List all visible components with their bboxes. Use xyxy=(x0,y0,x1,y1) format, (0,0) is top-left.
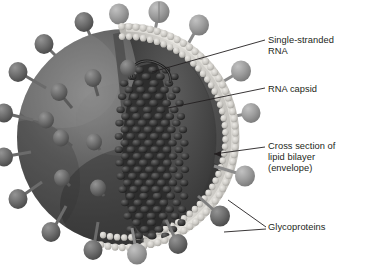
capsid-subunit xyxy=(149,100,158,107)
phospholipid-head xyxy=(211,88,217,95)
capsid-subunit xyxy=(157,179,166,186)
capsid-subunit xyxy=(180,193,188,200)
capsid-subunit xyxy=(150,133,159,140)
phospholipid-head xyxy=(231,151,238,158)
capsid-subunit xyxy=(159,199,168,206)
phospholipid-head xyxy=(186,223,193,230)
capsid-subunit xyxy=(174,186,182,193)
phospholipid-head xyxy=(125,23,132,30)
phospholipid-head xyxy=(232,137,239,144)
capsid-subunit xyxy=(126,120,135,127)
phospholipid-head xyxy=(192,206,198,213)
phospholipid-head xyxy=(147,241,154,248)
capsid-subunit xyxy=(150,146,159,153)
phospholipid-head xyxy=(215,75,222,82)
capsid-subunit xyxy=(135,80,144,87)
phospholipid-head xyxy=(227,101,234,108)
capsid-subunit xyxy=(177,113,185,120)
capsid-subunit xyxy=(117,173,125,180)
phospholipid-head xyxy=(174,36,181,43)
capsid-subunit xyxy=(145,153,154,160)
phospholipid-head xyxy=(133,34,139,41)
phospholipid-head xyxy=(133,23,140,30)
capsid-subunit xyxy=(163,173,172,180)
capsid-subunit xyxy=(143,113,152,120)
glycoprotein-spike xyxy=(90,180,106,197)
phospholipid-head xyxy=(209,183,215,190)
capsid-subunit xyxy=(172,120,180,127)
capsid-subunit xyxy=(157,153,166,160)
phospholipid-head xyxy=(192,218,199,225)
phospholipid-head xyxy=(147,36,153,43)
capsid-subunit xyxy=(134,233,143,240)
capsid-subunit xyxy=(115,120,123,127)
capsid-subunit xyxy=(156,73,165,80)
phospholipid-head xyxy=(114,234,120,241)
capsid-subunit xyxy=(172,87,180,94)
phospholipid-head xyxy=(229,108,236,115)
phospholipid-head xyxy=(118,23,125,30)
phospholipid-head xyxy=(121,234,127,241)
phospholipid-head xyxy=(112,243,119,250)
capsid-subunit xyxy=(171,213,179,220)
capsid-subunit xyxy=(156,106,165,113)
capsid-subunit xyxy=(145,179,154,186)
phospholipid-head xyxy=(219,81,226,88)
capsid-subunit xyxy=(153,206,162,213)
capsid-subunit xyxy=(133,153,142,160)
capsid-subunit xyxy=(159,213,168,220)
capsid-subunit xyxy=(115,160,123,167)
phospholipid-head xyxy=(212,197,219,204)
capsid-subunit xyxy=(169,179,178,186)
glycoprotein-spike xyxy=(38,112,54,129)
capsid-subunit xyxy=(130,93,139,100)
phospholipid-head xyxy=(207,63,214,70)
phospholipid-head xyxy=(221,115,227,122)
capsid-subunit xyxy=(126,193,135,200)
capsid-subunit xyxy=(136,100,145,107)
phospholipid-head xyxy=(100,232,106,239)
capsid-subunit xyxy=(140,186,149,193)
capsid-subunit xyxy=(180,179,188,186)
phospholipid-head xyxy=(217,101,223,108)
capsid-subunit xyxy=(179,126,187,133)
capsid-subunit xyxy=(139,160,148,167)
capsid-subunit xyxy=(118,186,126,193)
capsid-subunit xyxy=(177,219,185,226)
capsid-subunit xyxy=(128,206,137,213)
phospholipid-head xyxy=(161,30,168,37)
phospholipid-head xyxy=(232,144,239,151)
capsid-subunit xyxy=(121,199,129,206)
capsid-subunit xyxy=(174,133,182,140)
phospholipid-head xyxy=(200,70,206,77)
capsid-subunit xyxy=(181,153,189,160)
label-single-stranded-rna: Single-stranded RNA xyxy=(268,35,334,57)
capsid-subunit xyxy=(138,120,147,127)
phospholipid-head xyxy=(211,69,218,76)
phospholipid-head xyxy=(179,51,185,58)
capsid-subunit xyxy=(175,173,183,180)
capsid-subunit xyxy=(163,160,172,167)
capsid-subunit xyxy=(121,113,130,120)
capsid-subunit xyxy=(123,179,132,186)
phospholipid-head xyxy=(204,76,210,83)
capsid-subunit xyxy=(147,219,156,226)
capsid-subunit xyxy=(181,166,189,173)
capsid-subunit xyxy=(130,106,139,113)
phospholipid-head xyxy=(215,171,221,178)
capsid-subunit xyxy=(171,73,179,80)
capsid-subunit xyxy=(178,206,186,213)
capsid-subunit xyxy=(121,126,130,133)
phospholipid-head xyxy=(220,157,226,164)
capsid-subunit xyxy=(147,233,156,240)
capsid-subunit xyxy=(167,126,176,133)
phospholipid-head xyxy=(219,108,225,115)
capsid-subunit xyxy=(147,213,156,220)
label-glycoproteins: Glycoproteins xyxy=(268,222,326,233)
label-lipid-bilayer: Cross section of lipid bilayer (envelope… xyxy=(268,141,335,175)
capsid-subunit xyxy=(132,140,141,147)
phospholipid-head xyxy=(107,233,113,240)
capsid-subunit xyxy=(140,226,149,233)
phospholipid-head xyxy=(212,177,218,184)
capsid-subunit xyxy=(149,120,158,127)
